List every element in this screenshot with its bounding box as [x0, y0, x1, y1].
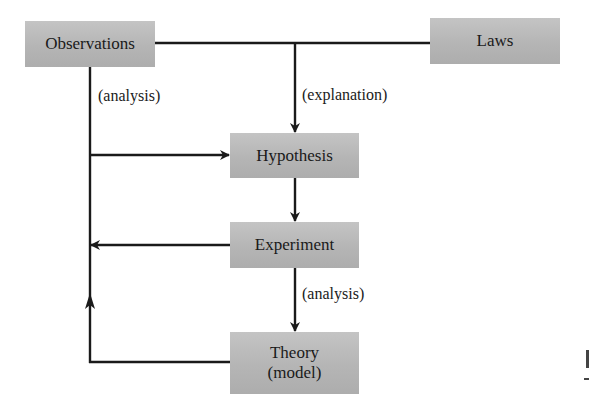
experiment-box: Experiment	[230, 222, 359, 268]
theory-sublabel: (model)	[268, 363, 322, 383]
hypothesis-box: Hypothesis	[230, 133, 359, 178]
theory-box: Theory (model)	[230, 332, 359, 394]
experiment-label: Experiment	[255, 235, 334, 255]
laws-label: Laws	[477, 31, 514, 51]
laws-box: Laws	[430, 18, 560, 64]
observations-box: Observations	[25, 21, 155, 67]
explanation-label: (explanation)	[302, 86, 387, 104]
theory-label: Theory	[270, 343, 319, 363]
observations-label: Observations	[45, 34, 135, 54]
edge-artifact-dash	[584, 378, 589, 380]
observations-analysis-label: (analysis)	[98, 87, 160, 105]
experiment-analysis-label: (analysis)	[302, 285, 364, 303]
hypothesis-label: Hypothesis	[256, 146, 333, 166]
